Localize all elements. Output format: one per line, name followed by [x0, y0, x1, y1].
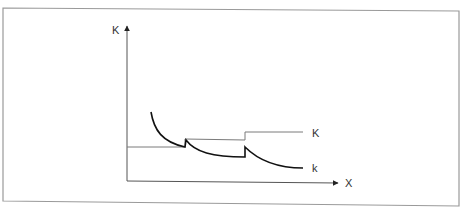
curve-k-label: k [312, 162, 318, 174]
curve-K-label: K [312, 127, 320, 139]
x-axis-label: X [345, 177, 353, 189]
figure-frame [3, 8, 459, 206]
diagram-canvas: K X K k [0, 0, 460, 210]
curve-K-step [127, 132, 303, 147]
x-axis [127, 181, 338, 183]
diagram-svg: K X K k [0, 0, 460, 210]
y-axis-label: K [112, 24, 120, 36]
